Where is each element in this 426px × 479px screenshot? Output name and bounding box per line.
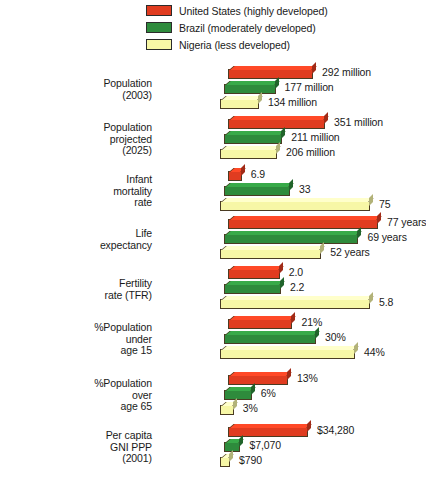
bar-side-face <box>258 92 262 104</box>
group-label-line: age 65 <box>2 401 152 413</box>
legend-united-states: United States (highly developed) <box>146 3 328 18</box>
bar <box>220 201 370 211</box>
bar <box>224 84 276 94</box>
bar-side-face <box>233 398 237 410</box>
group-label-line: rate (TFR) <box>2 290 152 302</box>
bar <box>228 269 280 279</box>
bar-value-label: 6.9 <box>251 168 265 180</box>
bar-side-face <box>357 227 361 239</box>
bar-value-label: 75 <box>379 198 390 210</box>
bar-value-label: 177 million <box>285 81 334 93</box>
bar <box>224 284 281 294</box>
bar <box>228 427 308 437</box>
bar <box>228 171 242 181</box>
bar-side-face <box>315 327 319 339</box>
bar-top-face <box>229 266 283 270</box>
bar-value-label: 292 million <box>322 66 371 78</box>
bar-value-label: 2.0 <box>289 266 303 278</box>
group-label-line: Life <box>2 228 152 240</box>
bar-side-face <box>369 292 373 304</box>
legend-label: Brazil (moderately developed) <box>179 22 316 34</box>
chart-legend: United States (highly developed)Brazil (… <box>146 3 328 54</box>
bar-value-label: 134 million <box>268 96 317 108</box>
bar-value-label: 77 years <box>387 216 426 228</box>
bar <box>220 99 259 109</box>
bar-side-face <box>377 212 381 224</box>
bar-value-label: 5.8 <box>379 296 393 308</box>
bar-top-face <box>225 331 320 335</box>
bar-side-face <box>369 194 373 206</box>
bar-top-face <box>221 198 374 202</box>
legend-brazil: Brazil (moderately developed) <box>146 20 328 35</box>
bar <box>224 186 290 196</box>
group-label-line: Fertility <box>2 278 152 290</box>
bar <box>224 390 252 400</box>
bar-top-face <box>225 281 285 285</box>
bar-top-face <box>225 183 294 187</box>
bar-top-face <box>225 231 362 235</box>
bar-side-face <box>276 142 280 154</box>
bar-top-face <box>229 424 312 428</box>
bar-top-face <box>225 81 279 85</box>
group-label-line: (2003) <box>2 90 152 102</box>
bar-value-label: 44% <box>364 346 385 358</box>
bar-side-face <box>291 312 295 324</box>
bar-value-label: 211 million <box>291 131 339 143</box>
bar-side-face <box>239 435 243 447</box>
bar-side-face <box>354 342 358 354</box>
bar <box>224 334 316 344</box>
bar-value-label: 21% <box>301 316 322 328</box>
bar-value-label: 52 years <box>330 246 369 258</box>
group-label-line: expectancy <box>2 240 152 252</box>
bar <box>228 375 288 385</box>
legend-swatch-icon <box>146 22 172 33</box>
bar-value-label: 69 years <box>367 231 406 243</box>
bar-side-face <box>281 127 285 139</box>
bar-side-face <box>279 262 283 274</box>
bar-side-face <box>229 450 233 462</box>
bar-top-face <box>229 66 317 70</box>
bar-top-face <box>221 246 325 250</box>
bar <box>220 405 234 415</box>
legend-label: United States (highly developed) <box>179 5 328 17</box>
group-label-line: mortality <box>2 186 152 198</box>
bar-value-label: 351 million <box>334 116 383 128</box>
group-label-line: rate <box>2 197 152 209</box>
bar-value-label: 2.2 <box>290 281 304 293</box>
bar <box>220 149 277 159</box>
bar-side-face <box>312 62 316 74</box>
group-label-line: (2001) <box>2 453 152 465</box>
bar <box>228 119 325 129</box>
bar-value-label: $34,280 <box>317 424 354 436</box>
bar-side-face <box>307 420 311 432</box>
bar-top-face <box>221 96 263 100</box>
group-label-line: %Population <box>2 378 152 390</box>
bar-top-face <box>229 372 292 376</box>
bar <box>224 234 358 244</box>
bar <box>220 349 355 359</box>
group-label-line: age 15 <box>2 345 152 357</box>
bar-value-label: 33 <box>299 183 310 195</box>
legend-swatch-icon <box>146 39 172 50</box>
bar-value-label: $790 <box>239 454 262 466</box>
bar-value-label: $7,070 <box>249 439 281 451</box>
bar <box>220 299 370 309</box>
bar <box>220 249 321 259</box>
legend-swatch-icon <box>146 5 172 16</box>
bar <box>228 219 378 229</box>
bar-side-face <box>324 112 328 124</box>
bar-value-label: 3% <box>243 402 258 414</box>
bar-side-face <box>320 242 324 254</box>
bar-top-face <box>229 316 296 320</box>
bar-side-face <box>251 383 255 395</box>
bar-top-face <box>225 131 286 135</box>
bar-top-face <box>221 296 374 300</box>
bar-top-face <box>221 146 281 150</box>
group-label-line: (2025) <box>2 145 152 157</box>
bar-side-face <box>289 179 293 191</box>
bar <box>220 457 230 467</box>
legend-label: Nigeria (less developed) <box>179 39 290 51</box>
bar-top-face <box>229 216 382 220</box>
bar-top-face <box>229 116 329 120</box>
